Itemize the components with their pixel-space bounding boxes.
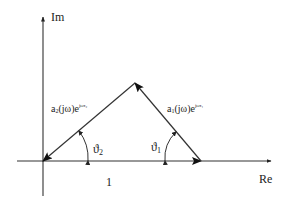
diagram-canvas bbox=[0, 0, 300, 204]
theta-1-label: ϑ1 bbox=[151, 141, 161, 155]
vector-2-label-mid: (jω)e bbox=[58, 103, 78, 114]
vector-2-label: a2(jω)ejωτ₂ bbox=[51, 103, 87, 114]
theta-2-arc-icon bbox=[79, 131, 88, 161]
vector-1-label: a1(jω)ejωτ₁ bbox=[167, 103, 203, 114]
imaginary-axis-label: Im bbox=[51, 11, 64, 23]
real-axis-label: Re bbox=[259, 173, 272, 185]
unit-label: 1 bbox=[106, 176, 112, 188]
theta-1-arc-icon bbox=[165, 132, 176, 161]
theta-1-sub: 1 bbox=[157, 146, 161, 155]
vector-2-label-sup: jωτ₂ bbox=[79, 103, 87, 108]
theta-2-label: ϑ2 bbox=[93, 143, 103, 157]
theta-2-sub: 2 bbox=[99, 148, 103, 157]
vector-1-label-sup: jωτ₁ bbox=[195, 103, 203, 108]
vector-1-arrow bbox=[135, 83, 201, 161]
vector-1-label-mid: (jω)e bbox=[174, 103, 194, 114]
vector-2-arrow bbox=[43, 83, 135, 161]
complex-plane-diagram: Im Re 1 a2(jω)ejωτ₂ a1(jω)ejωτ₁ ϑ2 ϑ1 bbox=[0, 0, 300, 204]
